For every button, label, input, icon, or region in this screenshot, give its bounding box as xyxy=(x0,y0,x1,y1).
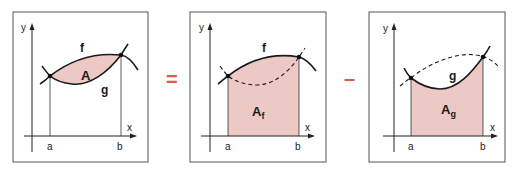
y-axis-label: y xyxy=(21,22,26,33)
region-a-label: A xyxy=(81,68,91,83)
bound-b-label: b xyxy=(295,141,301,152)
intersection-a xyxy=(48,74,53,79)
area-between-curves-diagram: y x a b f g A = y x a b f Af – xyxy=(0,0,514,176)
bound-a-label: a xyxy=(47,141,53,152)
curve-g-label: g xyxy=(449,69,456,83)
panel-frame xyxy=(13,12,148,162)
intersection-a xyxy=(226,74,231,79)
x-axis-label: x xyxy=(127,122,132,133)
x-axis-label: x xyxy=(305,122,310,133)
intersection-a xyxy=(409,76,414,81)
bound-b-label: b xyxy=(480,141,486,152)
panel-frame xyxy=(369,12,505,162)
equals-operator: = xyxy=(166,68,178,90)
intersection-b xyxy=(119,53,124,58)
y-axis-label: y xyxy=(383,23,388,34)
intersection-b xyxy=(481,55,486,60)
panel-area-under-g: y x a b g Ag xyxy=(369,12,505,162)
intersection-b xyxy=(297,55,302,60)
panel-area-between-curves: y x a b f g A xyxy=(13,12,148,162)
panel-area-under-f: y x a b f Af xyxy=(190,12,326,162)
minus-operator: – xyxy=(344,67,355,89)
bound-a-label: a xyxy=(225,141,231,152)
bound-a-label: a xyxy=(408,141,414,152)
y-axis-label: y xyxy=(199,22,204,33)
bound-b-label: b xyxy=(117,141,123,152)
curve-g-label: g xyxy=(101,83,108,97)
x-axis-label: x xyxy=(490,122,495,133)
